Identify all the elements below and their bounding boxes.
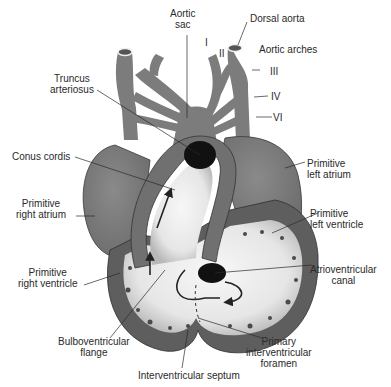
label-pif-line3: foramen: [246, 358, 312, 369]
label-avc-line1: Atrioventricular: [310, 264, 377, 275]
label-interventricular-septum: Interventricular septum: [138, 370, 240, 381]
label-prv-line2: right ventricle: [18, 278, 77, 289]
label-aortic-sac-line2: sac: [170, 19, 196, 30]
heart-illustration: [0, 0, 391, 387]
label-bvf-line2: flange: [58, 347, 130, 358]
label-bulboventricular-flange: Bulboventricular flange: [58, 336, 130, 358]
label-primitive-right-ventricle: Primitive right ventricle: [18, 267, 77, 289]
dorsal-aorta-left: [116, 49, 138, 141]
label-pla-line2: left atrium: [307, 169, 351, 180]
atrioventricular-canal-opening: [198, 263, 226, 283]
label-conus-cordis: Conus cordis: [12, 151, 70, 162]
label-aortic-sac-line1: Aortic: [170, 8, 196, 19]
label-arch-III: III: [270, 66, 278, 77]
label-plv-line1: Primitive: [310, 208, 363, 219]
label-atrioventricular-canal: Atrioventricular canal: [310, 264, 377, 286]
label-truncus-arteriosus: Truncus arteriosus: [50, 73, 94, 95]
label-pra-line2: right atrium: [16, 209, 66, 220]
label-prv-line1: Primitive: [18, 267, 77, 278]
label-aortic-arches: Aortic arches: [259, 44, 317, 55]
label-primitive-left-atrium: Primitive left atrium: [307, 158, 351, 180]
label-pif-line1: Primary: [246, 336, 312, 347]
label-primitive-left-ventricle: Primitive left ventricle: [310, 208, 363, 230]
label-arch-I: I: [205, 37, 208, 48]
label-arch-VI: VI: [273, 112, 282, 123]
label-pra-line1: Primitive: [16, 198, 66, 209]
label-arch-IV: IV: [271, 91, 280, 102]
label-primary-interventricular-foramen: Primary interventricular foramen: [246, 336, 312, 369]
label-truncus-line1: Truncus: [50, 73, 94, 84]
label-aortic-sac: Aortic sac: [170, 8, 196, 30]
label-primitive-right-atrium: Primitive right atrium: [16, 198, 66, 220]
label-pif-line2: interventricular: [246, 347, 312, 358]
label-avc-line2: canal: [310, 275, 377, 286]
label-bvf-line1: Bulboventricular: [58, 336, 130, 347]
label-plv-line2: left ventricle: [310, 219, 363, 230]
label-dorsal-aorta: Dorsal aorta: [250, 13, 304, 24]
label-pla-line1: Primitive: [307, 158, 351, 169]
label-truncus-line2: arteriosus: [50, 84, 94, 95]
embryonic-heart-diagram: Aortic sac Dorsal aorta Aortic arches I …: [0, 0, 391, 387]
label-arch-II: II: [219, 48, 225, 59]
